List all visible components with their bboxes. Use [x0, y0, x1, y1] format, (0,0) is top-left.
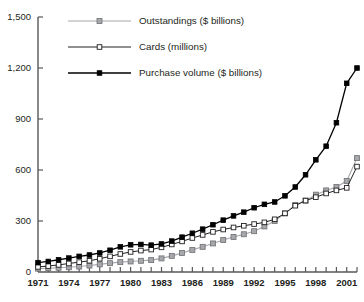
data-point	[149, 258, 154, 263]
data-point	[272, 200, 277, 205]
data-point	[108, 254, 113, 259]
data-point	[46, 264, 51, 269]
data-point	[169, 253, 174, 258]
data-point	[334, 188, 339, 193]
x-tick-label: 1983	[151, 277, 172, 288]
x-tick-label: 1998	[305, 277, 326, 288]
line-chart: 03006009001,2001,500 1971197419771980198…	[0, 0, 364, 302]
series-purchase_volume	[36, 66, 360, 265]
data-point	[252, 222, 257, 227]
data-point	[314, 158, 319, 163]
x-tick-label: 1971	[27, 277, 49, 288]
series-outstandings	[36, 156, 360, 272]
legend-item-0: Outstandings ($ billions)	[68, 15, 244, 26]
series-line	[38, 158, 357, 269]
data-point	[159, 256, 164, 261]
data-point	[139, 242, 144, 247]
data-point	[334, 120, 339, 125]
data-point	[87, 258, 92, 263]
legend-swatch-marker	[97, 19, 102, 24]
data-point	[77, 260, 82, 265]
data-point	[344, 186, 349, 191]
data-point	[211, 222, 216, 227]
data-point	[211, 230, 216, 235]
x-tick-label: 1977	[89, 277, 110, 288]
y-tick-label: 1,200	[7, 62, 31, 73]
data-point	[169, 239, 174, 244]
y-axis: 03006009001,2001,500	[7, 11, 43, 277]
data-point	[149, 247, 154, 252]
y-tick-label: 600	[15, 164, 31, 175]
legend-item-1: Cards (millions)	[68, 41, 207, 52]
data-point	[97, 256, 102, 261]
data-point	[252, 205, 257, 210]
data-point	[180, 250, 185, 255]
legend-label: Outstandings ($ billions)	[139, 15, 244, 26]
data-point	[283, 194, 288, 199]
data-point	[128, 243, 133, 248]
data-point	[190, 236, 195, 241]
data-point	[303, 198, 308, 203]
data-point	[262, 220, 267, 225]
data-point	[97, 251, 102, 256]
legend-item-2: Purchase volume ($ billions)	[68, 67, 262, 78]
data-point	[231, 234, 236, 239]
data-point	[87, 263, 92, 268]
data-point	[190, 231, 195, 236]
y-tick-label: 1,500	[7, 11, 31, 22]
data-point	[128, 250, 133, 255]
data-point	[293, 185, 298, 190]
x-tick-label: 1980	[120, 277, 141, 288]
series-line	[38, 68, 357, 263]
data-point	[344, 81, 349, 86]
data-point	[221, 227, 226, 232]
data-point	[355, 164, 360, 169]
data-point	[242, 210, 247, 215]
data-point	[231, 225, 236, 230]
data-point	[293, 203, 298, 208]
x-tick-label: 1989	[213, 277, 234, 288]
legend-swatch-marker	[97, 45, 102, 50]
data-point	[77, 254, 82, 259]
data-point	[314, 195, 319, 200]
data-point	[252, 229, 257, 234]
data-point	[128, 259, 133, 264]
data-point	[108, 248, 113, 253]
data-point	[242, 223, 247, 228]
data-point	[324, 191, 329, 196]
y-tick-label: 300	[15, 215, 31, 226]
legend-label: Purchase volume ($ billions)	[139, 67, 262, 78]
data-point	[200, 233, 205, 238]
chart-legend: Outstandings ($ billions)Cards (millions…	[68, 15, 262, 78]
data-point	[36, 260, 41, 265]
legend-swatch-marker	[97, 71, 102, 76]
data-point	[221, 218, 226, 223]
data-point	[355, 156, 360, 161]
chart-container: 03006009001,2001,500 1971197419771980198…	[0, 0, 364, 302]
x-axis: 1971197419771980198319861989199219951998…	[27, 267, 358, 288]
data-point	[210, 241, 215, 246]
data-point	[283, 211, 288, 216]
x-tick-label: 1986	[182, 277, 203, 288]
data-point	[118, 260, 123, 265]
y-tick-label: 0	[26, 266, 31, 277]
data-point	[344, 179, 349, 184]
x-tick-label: 2001	[336, 277, 358, 288]
x-tick-label: 1995	[274, 277, 296, 288]
data-point	[190, 247, 195, 252]
data-point	[200, 244, 205, 249]
data-point	[46, 259, 51, 264]
data-point	[118, 252, 123, 257]
data-point	[67, 261, 72, 266]
data-point	[200, 227, 205, 232]
data-point	[138, 258, 143, 263]
series-cards	[36, 164, 360, 269]
data-point	[87, 253, 92, 258]
data-point	[118, 245, 123, 250]
data-point	[56, 257, 61, 262]
data-point	[355, 66, 360, 71]
data-point	[262, 202, 267, 207]
data-point	[97, 262, 102, 267]
data-point	[56, 263, 61, 268]
data-point	[159, 242, 164, 247]
